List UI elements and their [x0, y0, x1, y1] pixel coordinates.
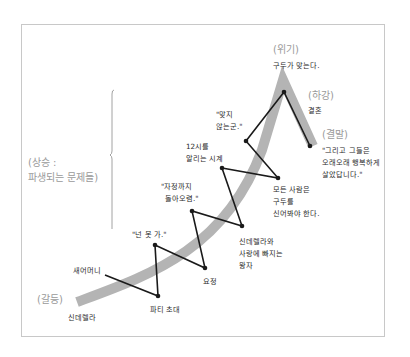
stage-rising-line1: (상승 : [28, 156, 56, 169]
label-doesnt-fit-1: "맞지 [216, 109, 233, 121]
label-prince-1: 신데렐라와 [239, 236, 274, 248]
label-happy-2: 오래오래 행복하게 [322, 157, 380, 169]
label-until-midnight-2: 돌아오렴." [165, 193, 199, 205]
label-happy-1: "그리고 그들은 [322, 145, 370, 157]
stage-ending: (결말) [322, 128, 348, 141]
label-fairy: 요정 [203, 276, 217, 288]
label-happy-3: 살았답니다." [322, 169, 363, 181]
label-everyone-2: 구두를 [273, 196, 294, 208]
stage-falling: (하강) [308, 89, 334, 102]
rising-bracket [110, 90, 114, 229]
label-you-cant-go: "넌 못 가." [132, 229, 166, 241]
label-everyone-3: 신어봐야 한다. [273, 208, 320, 220]
label-doesnt-fit-2: 않는군." [216, 121, 243, 133]
label-cinderella: 신데렐라 [68, 312, 96, 324]
label-party-invite: 파티 초대 [150, 304, 180, 316]
label-marriage: 결혼 [308, 105, 322, 117]
label-clock-2: 알리는 시계 [186, 153, 223, 165]
label-clock-1: 12시를 [186, 141, 209, 153]
label-stepmother: 새어머니 [73, 265, 101, 277]
label-prince-3: 왕자 [239, 260, 253, 272]
stage-rising-line2: 파생되는 문제들) [28, 171, 98, 184]
label-everyone-1: 모든 사람은 [273, 184, 310, 196]
stage-conflict: (갈등) [37, 293, 63, 306]
stage-crisis: (위기) [273, 43, 299, 56]
label-shoe-fits: 구두가 맞는다. [273, 60, 320, 72]
label-until-midnight-1: "자정까지 [161, 181, 192, 193]
label-prince-2: 사랑에 빠지는 [239, 248, 283, 260]
